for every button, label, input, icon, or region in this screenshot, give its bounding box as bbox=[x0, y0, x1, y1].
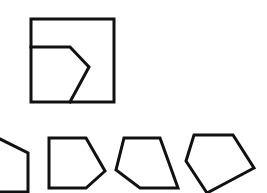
question-figure bbox=[31, 19, 114, 102]
answer-options bbox=[0, 135, 254, 193]
puzzle-diagram bbox=[0, 0, 267, 193]
outer-square bbox=[31, 19, 114, 102]
option-shape-3[interactable] bbox=[116, 138, 178, 188]
option-shape-2[interactable] bbox=[49, 138, 105, 188]
inner-cut-line bbox=[31, 47, 89, 102]
option-shape-1[interactable] bbox=[0, 138, 28, 192]
option-shape-4[interactable] bbox=[186, 135, 254, 193]
